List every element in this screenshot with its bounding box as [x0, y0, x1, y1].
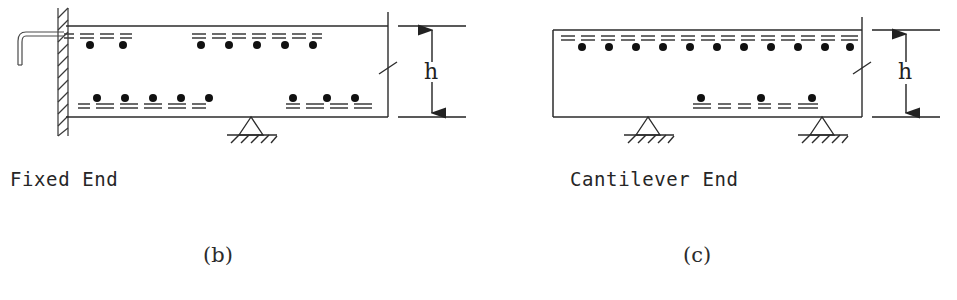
figure-root: Fixed End Cantilever End (b) (c) h h — [0, 0, 957, 300]
engineering-drawing-canvas — [0, 0, 957, 300]
bottom-rebar-dots-c — [697, 94, 816, 102]
pin-support-b — [227, 117, 277, 143]
break-line-b — [379, 12, 397, 117]
bottom-rebar-dots-b — [93, 94, 359, 102]
anchor-hook-bar — [18, 32, 64, 65]
top-rebar-dots-b — [86, 41, 317, 49]
caption-cantilever-end: Cantilever End — [570, 168, 739, 190]
top-rebar-b — [64, 34, 322, 38]
break-line-c — [853, 17, 871, 117]
pin-support-c-right — [798, 117, 848, 143]
dimension-label-h-b: h — [424, 59, 438, 84]
sublabel-panel-b: (b) — [203, 243, 233, 267]
top-rebar-dots-c — [578, 43, 854, 51]
panel-c-group — [553, 17, 940, 143]
panel-b-group — [18, 8, 466, 143]
bottom-rebar-c — [693, 104, 818, 108]
sublabel-panel-c: (c) — [683, 243, 711, 267]
caption-fixed-end: Fixed End — [10, 168, 118, 190]
pin-support-c-left — [624, 117, 674, 143]
dimension-label-h-c: h — [898, 59, 912, 84]
bottom-rebar-b — [78, 104, 372, 108]
top-rebar-c — [561, 36, 858, 40]
